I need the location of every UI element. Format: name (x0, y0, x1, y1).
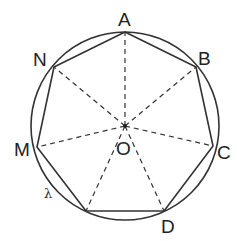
label-A: A (118, 9, 131, 30)
radius-ON (54, 67, 125, 126)
radius-OD (125, 126, 164, 211)
label-lambda: λ (44, 186, 52, 201)
label-C: C (217, 142, 231, 163)
radius-OC (125, 126, 213, 146)
label-N: N (33, 49, 47, 70)
label-D: D (161, 216, 175, 237)
center-point (123, 124, 127, 128)
radii (37, 32, 213, 211)
radius-OM (37, 126, 125, 147)
label-B: B (198, 48, 211, 69)
heptagon-diagram: A B C D M N O λ (0, 0, 237, 241)
label-M: M (14, 139, 30, 160)
radius-OB (125, 67, 196, 126)
label-O: O (116, 138, 131, 159)
